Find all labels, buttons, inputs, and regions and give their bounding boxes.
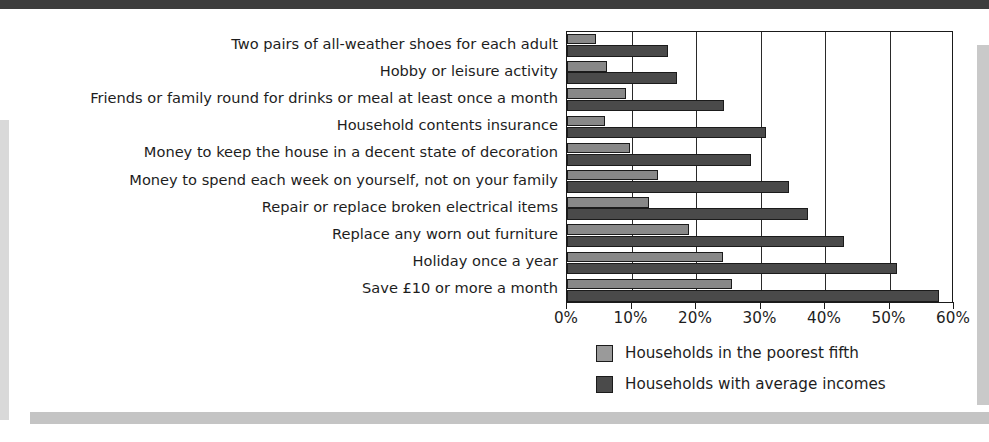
legend-item[interactable]: Households in the poorest fifth xyxy=(596,338,976,369)
grouped-bar-chart: Two pairs of all-weather shoes for each … xyxy=(0,0,989,442)
chart-legend: Households in the poorest fifthHousehold… xyxy=(596,338,976,400)
bar-average-incomes xyxy=(567,208,808,220)
bar-group xyxy=(567,86,952,113)
x-tick-label: 60% xyxy=(936,311,970,326)
bar-group xyxy=(567,32,952,59)
x-tick-label: 0% xyxy=(554,311,578,326)
category-label: Replace any worn out furniture xyxy=(0,227,558,242)
legend-label: Households in the poorest fifth xyxy=(625,346,859,361)
bar-poorest-fifth xyxy=(567,61,607,71)
bar-group xyxy=(567,168,952,195)
bar-average-incomes xyxy=(567,100,724,112)
category-axis-labels: Two pairs of all-weather shoes for each … xyxy=(0,31,558,303)
x-tick-label: 20% xyxy=(678,311,712,326)
bar-average-incomes xyxy=(567,45,668,57)
bar-poorest-fifth xyxy=(567,170,658,180)
bar-group xyxy=(567,222,952,249)
bar-average-incomes xyxy=(567,263,897,275)
category-label: Holiday once a year xyxy=(0,254,558,269)
bar-poorest-fifth xyxy=(567,143,630,153)
category-label: Hobby or leisure activity xyxy=(0,64,558,79)
x-tick-label: 30% xyxy=(743,311,777,326)
x-tick-label: 50% xyxy=(872,311,906,326)
plot-area xyxy=(566,31,953,303)
bar-group xyxy=(567,141,952,168)
bar-poorest-fifth xyxy=(567,224,689,234)
bar-group xyxy=(567,59,952,86)
bar-average-incomes xyxy=(567,127,766,139)
bar-group xyxy=(567,114,952,141)
category-label: Money to keep the house in a decent stat… xyxy=(0,145,558,160)
category-label: Repair or replace broken electrical item… xyxy=(0,200,558,215)
bar-average-incomes xyxy=(567,72,677,84)
bar-poorest-fifth xyxy=(567,197,649,207)
bar-poorest-fifth xyxy=(567,116,605,126)
page-root: Two pairs of all-weather shoes for each … xyxy=(0,0,989,442)
category-label: Friends or family round for drinks or me… xyxy=(0,91,558,106)
x-tick-label: 10% xyxy=(614,311,648,326)
category-label: Household contents insurance xyxy=(0,118,558,133)
legend-label: Households with average incomes xyxy=(625,377,886,392)
x-tick-label: 40% xyxy=(807,311,841,326)
bar-poorest-fifth xyxy=(567,88,626,98)
bar-group xyxy=(567,195,952,222)
bar-poorest-fifth xyxy=(567,34,596,44)
category-label: Money to spend each week on yourself, no… xyxy=(0,173,558,188)
legend-swatch-icon xyxy=(596,376,613,393)
category-label: Save £10 or more a month xyxy=(0,281,558,296)
bar-poorest-fifth xyxy=(567,252,723,262)
legend-swatch-icon xyxy=(596,345,613,362)
bar-group xyxy=(567,250,952,277)
bar-average-incomes xyxy=(567,181,789,193)
bar-average-incomes xyxy=(567,154,751,166)
bar-average-incomes xyxy=(567,290,939,302)
bar-average-incomes xyxy=(567,236,844,248)
bar-poorest-fifth xyxy=(567,279,732,289)
bar-group xyxy=(567,277,952,304)
category-label: Two pairs of all-weather shoes for each … xyxy=(0,37,558,52)
legend-item[interactable]: Households with average incomes xyxy=(596,369,976,400)
